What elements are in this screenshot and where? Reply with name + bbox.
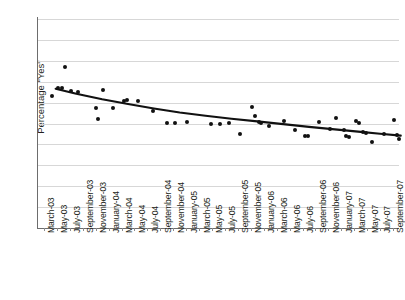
x-tick-label: September-03	[86, 180, 95, 233]
x-tick	[83, 228, 84, 231]
data-point	[227, 121, 231, 125]
data-point	[334, 116, 338, 120]
x-tick-label: July-07	[383, 206, 392, 233]
x-tick-label: March-04	[125, 198, 134, 234]
data-point	[342, 128, 346, 132]
x-tick	[251, 228, 252, 231]
data-point	[293, 128, 297, 132]
x-tick	[147, 228, 148, 231]
data-point	[76, 90, 80, 94]
x-tick-label: January-06	[267, 191, 276, 233]
x-tick-label: March-07	[358, 198, 367, 234]
x-tick	[212, 228, 213, 231]
x-tick-label: November-04	[177, 182, 186, 233]
x-tick	[225, 228, 226, 231]
x-tick	[44, 228, 45, 231]
x-tick-label: July-03	[73, 206, 82, 233]
data-point	[165, 121, 169, 125]
data-point	[151, 109, 155, 113]
x-tick	[393, 228, 394, 231]
x-tick-label: September-05	[241, 180, 250, 233]
data-point	[267, 124, 271, 128]
data-point	[69, 89, 73, 93]
chart-title	[0, 0, 401, 3]
x-tick	[109, 228, 110, 231]
data-point	[173, 121, 177, 125]
x-tick-label: May-06	[293, 205, 302, 233]
x-tick	[238, 228, 239, 231]
data-point	[347, 135, 351, 139]
x-tick	[380, 228, 381, 231]
x-tick	[70, 228, 71, 231]
x-tick-label: November-03	[99, 182, 108, 233]
x-tick-label: November-05	[254, 182, 263, 233]
x-tick-label: November-06	[332, 182, 341, 233]
x-tick	[341, 228, 342, 231]
x-tick	[134, 228, 135, 231]
x-tick-label: September-07	[396, 180, 405, 233]
data-point	[125, 98, 129, 102]
x-tick	[57, 228, 58, 231]
x-tick	[173, 228, 174, 231]
data-point	[63, 65, 67, 69]
data-point	[395, 133, 399, 137]
x-tick	[290, 228, 291, 231]
x-tick-label: January-07	[345, 191, 354, 233]
x-tick	[199, 228, 200, 231]
x-tick	[277, 228, 278, 231]
x-tick-label: January-05	[190, 191, 199, 233]
data-point	[253, 114, 257, 118]
x-tick	[122, 228, 123, 231]
data-point	[50, 94, 54, 98]
x-tick	[315, 228, 316, 231]
data-point	[364, 131, 368, 135]
plot-area: 0102030405060708090100 March-03May-03Jul…	[38, 19, 399, 228]
x-tick	[96, 228, 97, 231]
x-tick-label: May-04	[138, 205, 147, 233]
x-tick-label: March-03	[47, 198, 56, 234]
x-tick	[354, 228, 355, 231]
data-point	[259, 121, 263, 125]
x-tick	[367, 228, 368, 231]
x-tick-label: July-04	[151, 206, 160, 233]
x-tick-label: September-04	[164, 180, 173, 233]
data-point	[60, 86, 64, 90]
x-tick	[264, 228, 265, 231]
x-tick-label: July-05	[228, 206, 237, 233]
x-tick-label: July-06	[306, 206, 315, 233]
x-tick	[328, 228, 329, 231]
data-point	[218, 122, 222, 126]
x-tick-label: May-05	[215, 205, 224, 233]
x-tick-label: January-04	[112, 191, 121, 233]
x-tick	[160, 228, 161, 231]
data-point	[328, 127, 332, 131]
x-tick-label: March-05	[203, 198, 212, 234]
x-tick-label: March-06	[280, 198, 289, 234]
x-tick-label: May-07	[371, 205, 380, 233]
data-point	[209, 122, 213, 126]
data-point	[382, 132, 386, 136]
x-tick-label: May-03	[60, 205, 69, 233]
x-tick-label: September-06	[319, 180, 328, 233]
x-tick	[186, 228, 187, 231]
data-point	[397, 137, 401, 141]
data-point	[306, 134, 310, 138]
x-tick	[303, 228, 304, 231]
